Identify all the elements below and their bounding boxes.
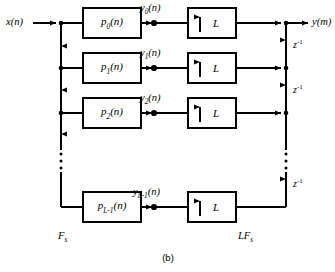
input-rate-label: Fs: [58, 230, 67, 244]
upsampler-factor-label-0: L: [213, 17, 219, 29]
signal-node-dot-3: [151, 204, 157, 210]
left-ellipsis-dot: [60, 167, 63, 170]
filter-sub-3: L-1: [103, 206, 113, 215]
signal-label-2: y2(n): [140, 93, 161, 106]
signal-arg-2: (n): [148, 92, 160, 103]
right-ellipsis-dot: [285, 167, 288, 170]
signal-arg-0: (n): [148, 2, 160, 13]
sum-junction-dot-0: [284, 21, 289, 26]
signal-label-1: y1(n): [140, 48, 161, 61]
input-rate-sub: s: [64, 236, 67, 244]
delay-label-1: z-1: [293, 83, 303, 95]
upsampler-factor-label-2: L: [213, 107, 219, 119]
filter-arg-0: (n): [110, 15, 123, 27]
output-signal-label: y(m): [312, 17, 331, 28]
filter-block-label-0: p0(n): [101, 15, 123, 30]
signal-label-3: yL-1(n): [133, 187, 160, 200]
left-ellipsis-dot: [60, 153, 63, 156]
bus-junction-dot-2: [59, 111, 64, 116]
filter-arg-1: (n): [110, 60, 123, 72]
right-ellipsis-dot: [285, 160, 288, 163]
filter-block-label-2: p2(n): [101, 105, 123, 120]
delay-label-0: z-1: [293, 38, 303, 50]
output-rate-label: LFs: [238, 230, 253, 244]
filter-arg-2: (n): [110, 105, 123, 117]
upsampler-factor-label-3: L: [213, 201, 219, 213]
delay-label-2: z-1: [293, 177, 303, 189]
polyphase-interpolator-diagram: x(n) y(m) p0(n) p1(n) p2(n) pL-1(n) y0(n…: [0, 0, 335, 272]
input-signal-label: x(n): [6, 17, 23, 28]
sum-junction-dot-2: [284, 111, 289, 116]
filter-block-label-1: p1(n): [101, 60, 123, 75]
right-ellipsis-dot: [285, 153, 288, 156]
bus-junction-dot-0: [59, 21, 64, 26]
filter-arg-3: (n): [113, 199, 126, 211]
signal-node-dot-1: [151, 65, 157, 71]
delay-sup-0: -1: [297, 38, 303, 46]
delay-sup-2: -1: [297, 177, 303, 185]
signal-label-0: y0(n): [140, 3, 161, 16]
filter-block-label-3: pL-1(n): [98, 199, 127, 214]
output-rate-base: LF: [238, 230, 250, 241]
output-rate-sub: s: [250, 236, 253, 244]
upsampler-factor-label-1: L: [213, 62, 219, 74]
signal-sub-3: L-1: [138, 192, 148, 200]
signal-arg-1: (n): [148, 47, 160, 58]
delay-sup-1: -1: [297, 83, 303, 91]
sum-junction-dot-1: [284, 66, 289, 71]
figure-caption: (b): [162, 252, 174, 263]
diagram-canvas: [0, 0, 335, 272]
signal-node-dot-0: [151, 20, 157, 26]
signal-arg-3: (n): [148, 186, 160, 197]
left-ellipsis-dot: [60, 160, 63, 163]
bus-junction-dot-1: [59, 66, 64, 71]
signal-node-dot-2: [151, 110, 157, 116]
